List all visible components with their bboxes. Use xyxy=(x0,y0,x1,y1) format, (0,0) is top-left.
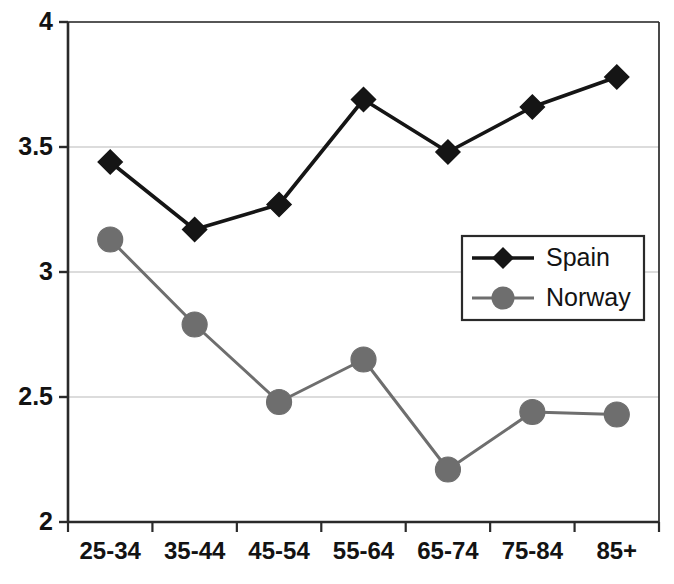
x-tick-label: 85+ xyxy=(575,539,659,563)
legend-label-norway: Norway xyxy=(546,285,631,310)
data-point-marker xyxy=(605,65,629,89)
y-tick-label: 3.5 xyxy=(18,134,53,159)
x-tick-label: 75-84 xyxy=(490,539,574,563)
x-tick-label: 35-44 xyxy=(152,539,236,563)
y-tick-label: 4 xyxy=(39,9,53,34)
chart-figure: · · · · · · · · · · 22.533.54 25-3435-44… xyxy=(0,0,674,584)
y-tick-label: 2 xyxy=(39,509,53,534)
x-tick-label: 25-34 xyxy=(68,539,152,563)
x-tick-label: 55-64 xyxy=(321,539,405,563)
data-point-marker xyxy=(520,400,545,425)
data-point-marker xyxy=(520,95,544,119)
x-tick-label: 45-54 xyxy=(237,539,321,563)
x-tick-label: 65-74 xyxy=(406,539,490,563)
data-point-marker xyxy=(182,312,207,337)
data-point-marker xyxy=(98,227,123,252)
data-point-marker xyxy=(435,457,460,482)
data-point-marker xyxy=(351,347,376,372)
legend-marker-circle xyxy=(492,287,515,310)
y-tick-label: 2.5 xyxy=(18,384,53,409)
data-point-marker xyxy=(604,402,629,427)
legend-label-spain: Spain xyxy=(546,245,610,270)
series-spain xyxy=(98,65,629,242)
data-point-marker xyxy=(436,140,460,164)
y-tick-label: 3 xyxy=(39,259,53,284)
data-point-marker xyxy=(267,390,292,415)
